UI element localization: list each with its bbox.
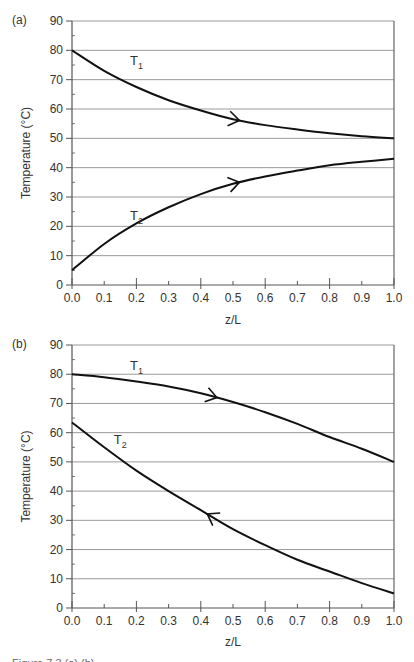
series-label-t1: T1 bbox=[130, 53, 143, 71]
y-tick-label: 50 bbox=[50, 455, 64, 469]
x-axis-title: z/L bbox=[225, 635, 241, 649]
y-tick-label: 70 bbox=[50, 73, 64, 87]
y-tick-label: 40 bbox=[50, 484, 64, 498]
x-tick-label: 0.9 bbox=[353, 614, 370, 628]
x-tick-label: 1.0 bbox=[386, 614, 403, 628]
y-tick-label: 80 bbox=[50, 43, 64, 57]
figure-caption: Figure 7.3 (a) (b) ... bbox=[12, 656, 107, 662]
y-axis-title: Temperature (°C) bbox=[19, 107, 33, 199]
x-tick-label: 0.7 bbox=[289, 614, 306, 628]
x-tick-label: 0.5 bbox=[225, 614, 242, 628]
x-tick-label: 0.4 bbox=[192, 291, 209, 305]
x-tick-label: 0.1 bbox=[96, 291, 113, 305]
x-tick-label: 0.2 bbox=[128, 614, 145, 628]
x-tick-label: 0.0 bbox=[64, 291, 81, 305]
y-tick-label: 10 bbox=[50, 249, 64, 263]
series-label-t2: T2 bbox=[114, 432, 127, 450]
y-tick-label: 20 bbox=[50, 543, 64, 557]
chart-panel-b: (b)01020304050607080900.00.10.20.30.40.5… bbox=[12, 337, 403, 649]
y-tick-label: 40 bbox=[50, 161, 64, 175]
y-tick-label: 60 bbox=[50, 102, 64, 116]
y-tick-label: 80 bbox=[50, 367, 64, 381]
x-tick-label: 0.8 bbox=[321, 614, 338, 628]
x-tick-label: 0.4 bbox=[192, 614, 209, 628]
series-line-t1 bbox=[72, 374, 394, 462]
y-tick-label: 30 bbox=[50, 190, 64, 204]
y-tick-label: 30 bbox=[50, 513, 64, 527]
series-line-t2 bbox=[72, 422, 394, 593]
x-tick-label: 0.2 bbox=[128, 291, 145, 305]
y-tick-label: 0 bbox=[56, 278, 63, 292]
x-axis-title: z/L bbox=[225, 313, 241, 327]
x-tick-label: 0.8 bbox=[321, 291, 338, 305]
series-line-t1 bbox=[72, 50, 394, 138]
x-tick-label: 0.0 bbox=[64, 614, 81, 628]
x-tick-label: 0.9 bbox=[353, 291, 370, 305]
x-tick-label: 0.3 bbox=[160, 614, 177, 628]
x-tick-label: 0.6 bbox=[257, 291, 274, 305]
y-tick-label: 90 bbox=[50, 338, 64, 352]
series-label-t1: T1 bbox=[130, 358, 143, 376]
chart-panel-a: (a)01020304050607080900.00.10.20.30.40.5… bbox=[12, 13, 403, 327]
y-tick-label: 90 bbox=[50, 14, 64, 28]
x-tick-label: 1.0 bbox=[386, 291, 403, 305]
figure: (a)01020304050607080900.00.10.20.30.40.5… bbox=[0, 0, 414, 662]
panel-label: (b) bbox=[12, 337, 27, 351]
x-tick-label: 0.3 bbox=[160, 291, 177, 305]
x-tick-label: 0.1 bbox=[96, 614, 113, 628]
y-tick-label: 70 bbox=[50, 396, 64, 410]
y-tick-label: 0 bbox=[56, 601, 63, 615]
y-axis-title: Temperature (°C) bbox=[19, 430, 33, 522]
panel-label: (a) bbox=[12, 13, 27, 27]
x-tick-label: 0.7 bbox=[289, 291, 306, 305]
y-tick-label: 50 bbox=[50, 131, 64, 145]
x-tick-label: 0.6 bbox=[257, 614, 274, 628]
y-tick-label: 60 bbox=[50, 426, 64, 440]
series-line-t2 bbox=[72, 159, 394, 270]
y-tick-label: 10 bbox=[50, 572, 64, 586]
x-tick-label: 0.5 bbox=[225, 291, 242, 305]
y-tick-label: 20 bbox=[50, 219, 64, 233]
